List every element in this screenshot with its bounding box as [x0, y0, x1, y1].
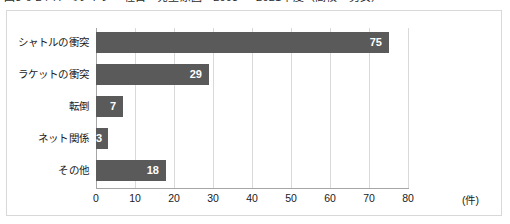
x-tick-label: 30: [198, 192, 228, 204]
x-tick-label: 60: [315, 192, 345, 204]
x-tick-label: 50: [276, 192, 306, 204]
unit-label: (件): [462, 192, 479, 207]
category-label: ネット関係: [38, 128, 89, 149]
bar-value-label: 29: [96, 64, 209, 85]
bar-value-label: 75: [96, 32, 389, 53]
bar-row: 転倒7: [96, 92, 123, 124]
bar-value-label: 18: [96, 160, 166, 181]
bar-row: その他18: [96, 156, 166, 188]
x-tick-label: 70: [354, 192, 384, 204]
category-label: 転倒: [69, 96, 89, 117]
x-tick-label: 80: [393, 192, 423, 204]
chart-title-strip: 図3-6-2 バドミントン 種目・発生原因 2003 ～ 2021年度（高校・男…: [0, 0, 510, 9]
bar-row: ネット関係3: [96, 124, 108, 156]
x-axis-line: [96, 188, 409, 189]
category-label: ラケットの衝突: [18, 64, 89, 85]
bar-row: シャトルの衝突75: [96, 28, 389, 60]
x-tick-label: 20: [159, 192, 189, 204]
category-label: シャトルの衝突: [18, 32, 89, 53]
x-tick-label: 0: [81, 192, 111, 204]
x-tick-label: 10: [120, 192, 150, 204]
bar-value-label: 3: [96, 128, 108, 149]
chart-card: シャトルの衝突75ラケットの衝突29転倒7ネット関係3その他18 0102030…: [6, 10, 502, 216]
bar-value-label: 7: [96, 96, 123, 117]
x-tick-label: 40: [237, 192, 267, 204]
bar-row: ラケットの衝突29: [96, 60, 209, 92]
chart-title: 図3-6-2 バドミントン 種目・発生原因 2003 ～ 2021年度（高校・男…: [4, 0, 382, 4]
plot-area: シャトルの衝突75ラケットの衝突29転倒7ネット関係3その他18: [96, 28, 408, 188]
category-label: その他: [58, 160, 89, 181]
gridline-80: [408, 28, 409, 188]
